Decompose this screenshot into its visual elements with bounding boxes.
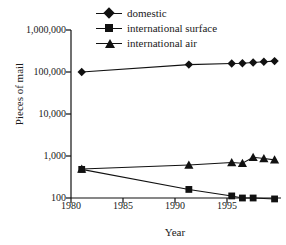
series-line-international-air <box>82 157 275 169</box>
data-point-diamond <box>238 59 246 67</box>
data-point-diamond <box>228 59 236 67</box>
data-point-diamond <box>185 60 193 68</box>
data-point-square <box>271 196 278 203</box>
data-point-diamond <box>249 58 257 66</box>
data-point-square <box>228 193 235 200</box>
chart-figure: domestic international surface internati… <box>0 0 286 245</box>
data-point-triangle <box>227 158 236 166</box>
data-point-diamond <box>270 57 278 65</box>
data-point-square <box>250 195 257 202</box>
series-layer <box>77 57 279 202</box>
data-point-diamond <box>260 58 268 66</box>
data-point-square <box>185 186 192 193</box>
data-point-diamond <box>78 68 86 76</box>
series-canvas <box>0 0 286 245</box>
series-line-international-surface <box>82 169 275 199</box>
plot-area <box>0 0 286 245</box>
data-point-square <box>239 195 246 202</box>
axis-lines <box>66 30 281 203</box>
data-point-triangle <box>249 153 258 161</box>
